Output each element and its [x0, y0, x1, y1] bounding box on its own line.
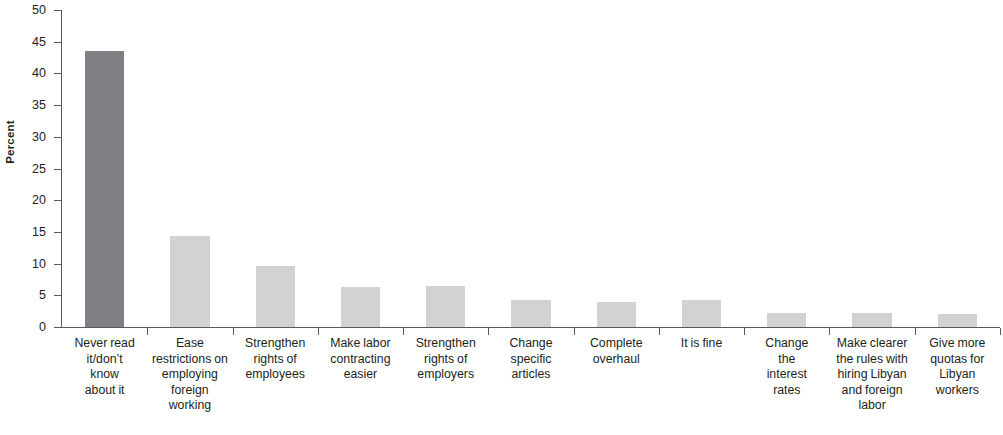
x-axis-label-line: Libyan [915, 367, 1000, 383]
x-axis-tick [318, 328, 319, 335]
bar [341, 287, 380, 327]
x-axis-label-line: Strengthen [233, 336, 318, 352]
bar [682, 300, 721, 327]
y-axis-tick [54, 137, 61, 138]
y-axis-tick [54, 105, 61, 106]
y-axis-tick-label: 20 [0, 193, 46, 207]
x-axis-tick [488, 328, 489, 335]
y-axis-tick [54, 264, 61, 265]
bar [767, 313, 806, 327]
x-axis-label-line: rates [744, 383, 829, 399]
y-axis-tick [54, 169, 61, 170]
x-axis-line [61, 327, 1000, 328]
bar [256, 266, 295, 327]
x-axis-label-line: rights of [233, 352, 318, 368]
x-axis-label-line: the rules with [829, 352, 914, 368]
x-axis-label-line: articles [488, 367, 573, 383]
x-axis-label-line: and foreign [829, 383, 914, 399]
y-axis-tick [54, 10, 61, 11]
x-axis-label-line: restrictions on [147, 352, 232, 368]
bar [85, 51, 124, 327]
bar [938, 314, 977, 327]
x-axis-category-label: Make clearerthe rules withhiring Libyana… [829, 336, 914, 414]
x-axis-label-line: employers [403, 367, 488, 383]
x-axis-category-label: Never readit/don’tknowabout it [62, 336, 147, 398]
x-axis-tick [233, 328, 234, 335]
y-axis-tick-label: 30 [0, 130, 46, 144]
x-axis-tick [829, 328, 830, 335]
x-axis-label-line: Give more [915, 336, 1000, 352]
x-axis-label-line: overhaul [574, 352, 659, 368]
x-axis-label-line: Complete [574, 336, 659, 352]
y-axis-tick [54, 42, 61, 43]
y-axis-tick-label: 35 [0, 98, 46, 112]
bar [426, 286, 465, 327]
x-axis-category-label: Completeoverhaul [574, 336, 659, 367]
x-axis-label-line: know [62, 367, 147, 383]
x-axis-label-line: Change [488, 336, 573, 352]
y-axis-tick [54, 200, 61, 201]
x-axis-label-line: hiring Libyan [829, 367, 914, 383]
x-axis-label-line: Make labor [318, 336, 403, 352]
x-axis-category-label: Make laborcontractingeasier [318, 336, 403, 383]
x-axis-category-label: Easerestrictions onemployingforeignworki… [147, 336, 232, 414]
x-axis-label-line: it/don’t [62, 352, 147, 368]
y-axis-tick-label: 25 [0, 162, 46, 176]
x-axis-label-line: employees [233, 367, 318, 383]
x-axis-label-line: working [147, 398, 232, 414]
x-axis-category-label: Strengthenrights ofemployees [233, 336, 318, 383]
x-axis-label-line: contracting [318, 352, 403, 368]
y-axis-tick [54, 295, 61, 296]
y-axis-tick [54, 73, 61, 74]
bar [852, 313, 891, 327]
x-axis-label-line: quotas for [915, 352, 1000, 368]
x-axis-category-label: Changetheinterestrates [744, 336, 829, 398]
y-axis-tick-label: 0 [0, 320, 46, 334]
x-axis-category-label: Give morequotas forLibyanworkers [915, 336, 1000, 398]
x-axis-category-label: Changespecificarticles [488, 336, 573, 383]
x-axis-tick [147, 328, 148, 335]
x-axis-tick [744, 328, 745, 335]
y-axis-tick-label: 45 [0, 35, 46, 49]
x-axis-label-line: foreign [147, 383, 232, 399]
bar-chart: Percent 05101520253035404550 Never readi… [0, 0, 1003, 435]
x-axis-label-line: Change [744, 336, 829, 352]
x-axis-label-line: the [744, 352, 829, 368]
y-axis-tick-label: 10 [0, 257, 46, 271]
x-axis-label-line: about it [62, 383, 147, 399]
y-axis-tick-label: 40 [0, 66, 46, 80]
x-axis-label-line: interest [744, 367, 829, 383]
x-axis-tick [1000, 328, 1001, 335]
bar [511, 300, 550, 327]
x-axis-label-line: Ease [147, 336, 232, 352]
y-axis-tick-label: 15 [0, 225, 46, 239]
y-axis-tick [54, 327, 61, 328]
x-axis-label-line: labor [829, 398, 914, 414]
x-axis-tick [574, 328, 575, 335]
x-axis-tick [659, 328, 660, 335]
x-axis-label-line: Make clearer [829, 336, 914, 352]
x-axis-label-line: Never read [62, 336, 147, 352]
y-axis-tick-label: 5 [0, 288, 46, 302]
x-axis-label-line: workers [915, 383, 1000, 399]
bar [170, 236, 209, 327]
x-axis-label-line: rights of [403, 352, 488, 368]
bar [597, 302, 636, 327]
x-axis-label-line: specific [488, 352, 573, 368]
x-axis-tick [403, 328, 404, 335]
y-axis-tick [54, 232, 61, 233]
x-axis-label-line: Strengthen [403, 336, 488, 352]
x-axis-category-labels: Never readit/don’tknowabout itEaserestri… [62, 336, 1000, 435]
x-axis-label-line: easier [318, 367, 403, 383]
x-axis-category-label: It is fine [659, 336, 744, 352]
x-axis-tick [915, 328, 916, 335]
x-axis-category-label: Strengthenrights ofemployers [403, 336, 488, 383]
y-axis-tick-label: 50 [0, 3, 46, 17]
x-axis-label-line: It is fine [659, 336, 744, 352]
plot-area [62, 10, 1000, 327]
x-axis-label-line: employing [147, 367, 232, 383]
